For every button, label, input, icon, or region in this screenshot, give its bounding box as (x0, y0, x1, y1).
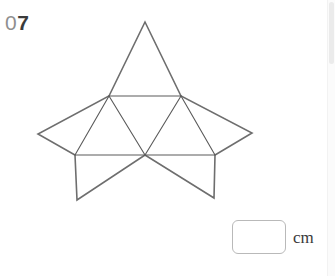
answer-row: cm (232, 220, 314, 254)
net-outline-group (38, 22, 252, 200)
net-outline-path (38, 22, 252, 200)
vertical-scrollbar-thumb[interactable] (329, 2, 334, 64)
answer-unit-label: cm (293, 229, 314, 246)
answer-input[interactable] (232, 220, 286, 254)
vertical-scrollbar-track[interactable] (327, 0, 335, 276)
page-root: 07 cm (0, 0, 335, 276)
